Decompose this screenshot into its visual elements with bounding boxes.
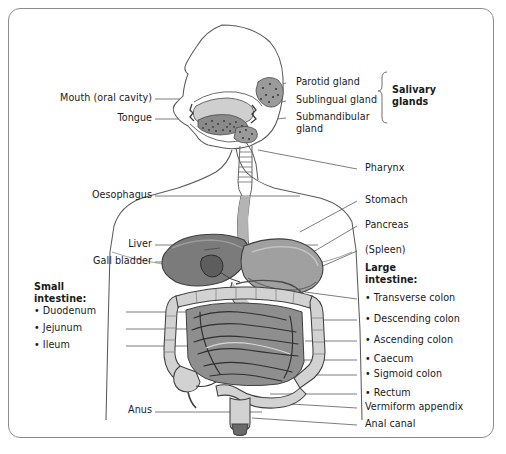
label-sublingual-gland-text: Sublingual gland (296, 94, 377, 105)
anal-canal-shape (232, 424, 248, 436)
label-transverse-colon: • Transverse colon (365, 292, 455, 304)
label-parotid-gland: Parotid gland (296, 76, 360, 88)
label-liver: Liver (0, 238, 152, 250)
label-ileum-text: Ileum (43, 339, 70, 350)
label-gall-bladder-text: Gall bladder (93, 255, 152, 266)
label-pharynx: Pharynx (365, 162, 404, 174)
label-duodenum-text: Duodenum (43, 305, 96, 316)
label-vermiform-appendix-text: Vermiform appendix (365, 401, 463, 412)
salivary-bracket (378, 72, 387, 123)
small-intestine-heading-line1: Small (34, 281, 64, 292)
label-spleen: (Spleen) (365, 244, 406, 256)
label-rectum: • Rectum (365, 387, 411, 399)
label-mouth-text: Mouth (oral cavity) (60, 92, 152, 103)
trachea-rings (238, 152, 252, 182)
label-pancreas-text: Pancreas (365, 219, 409, 230)
large-intestine-heading: Large intestine: (365, 262, 417, 285)
label-submandibular-gland-text: Submandibular (296, 111, 370, 122)
leader-anal-canal (252, 418, 357, 425)
label-stomach: Stomach (365, 194, 408, 206)
label-ascending-colon: • Ascending colon (365, 334, 453, 346)
small-intestine-heading: Small intestine: (34, 281, 86, 304)
small-intestine-group (186, 303, 304, 387)
label-tongue-text: Tongue (117, 112, 152, 123)
label-anal-canal: Anal canal (365, 418, 416, 430)
label-gall-bladder: Gall bladder (0, 255, 152, 267)
label-pharynx-text: Pharynx (365, 162, 404, 173)
anatomy-illustration (0, 0, 506, 454)
salivary-glands-heading: Salivary glands (392, 84, 436, 107)
label-submandibular-gland: Submandibular gland (296, 111, 370, 134)
label-caecum: • Caecum (365, 353, 413, 365)
label-rectum-text: Rectum (374, 387, 411, 398)
label-oesophagus: Oesophagus (0, 189, 152, 201)
label-descending-colon: • Descending colon (365, 313, 460, 325)
label-anus-text: Anus (128, 404, 152, 415)
label-sublingual-gland: Sublingual gland (296, 94, 377, 106)
salivary-glands-line2: glands (392, 96, 428, 107)
label-caecum-text: Caecum (374, 353, 413, 364)
label-anus: Anus (0, 404, 152, 416)
label-submandibular-gland-text2: gland (296, 123, 323, 134)
label-tongue: Tongue (0, 112, 152, 124)
label-mouth: Mouth (oral cavity) (0, 92, 152, 104)
label-pancreas: Pancreas (365, 219, 409, 231)
label-liver-text: Liver (128, 238, 152, 249)
label-descending-colon-text: Descending colon (374, 313, 460, 324)
label-anal-canal-text: Anal canal (365, 418, 416, 429)
label-jejunum: • Jejunum (34, 322, 82, 334)
leader-pharynx (258, 150, 357, 169)
label-ileum: • Ileum (34, 339, 70, 351)
label-sigmoid-colon: • Sigmoid colon (365, 368, 442, 380)
label-oesophagus-text: Oesophagus (92, 189, 152, 200)
digestive-system-figure: Mouth (oral cavity) Tongue Oesophagus Li… (0, 0, 506, 454)
salivary-glands-line1: Salivary (392, 84, 436, 95)
label-stomach-text: Stomach (365, 194, 408, 205)
large-intestine-heading-line2: intestine: (365, 274, 417, 285)
label-ascending-colon-text: Ascending colon (374, 334, 453, 345)
label-vermiform-appendix: Vermiform appendix (365, 401, 463, 413)
submandibular-gland-shape (234, 126, 257, 142)
label-parotid-gland-text: Parotid gland (296, 76, 360, 87)
label-duodenum: • Duodenum (34, 305, 96, 317)
label-spleen-text: (Spleen) (365, 244, 406, 255)
large-intestine-heading-line1: Large (365, 262, 396, 273)
pharynx-oesophagus-group (237, 142, 258, 252)
label-transverse-colon-text: Transverse colon (374, 292, 455, 303)
small-intestine-heading-line2: intestine: (34, 293, 86, 304)
label-sigmoid-colon-text: Sigmoid colon (374, 368, 442, 379)
label-jejunum-text: Jejunum (43, 322, 82, 333)
vermiform-appendix-shape (188, 392, 196, 408)
